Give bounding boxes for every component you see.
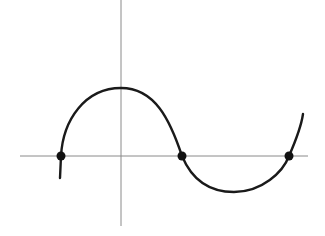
- root-point-1: [57, 152, 66, 161]
- function-graph-diagram: [0, 0, 325, 236]
- root-point-2: [178, 152, 187, 161]
- root-point-3: [285, 152, 294, 161]
- function-curve: [60, 88, 303, 192]
